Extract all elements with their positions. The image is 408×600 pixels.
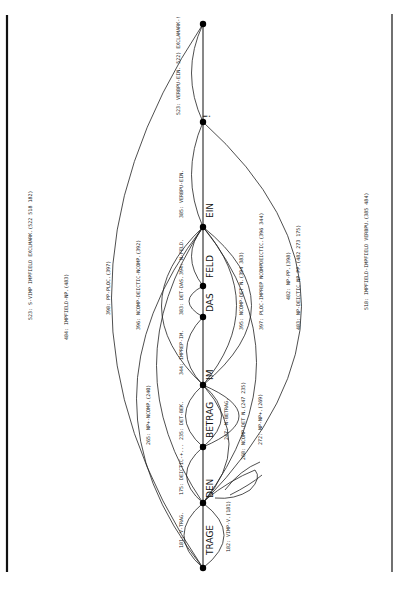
label-394: 394: N-FELD. — [178, 239, 184, 275]
word-feld: FELD — [205, 255, 215, 278]
word-den: DEN — [205, 479, 215, 498]
label-344: 344: IMPREP-IM. — [178, 330, 184, 375]
word-trage: TRAGE — [205, 525, 215, 556]
label-265: 265: NP+-NCOMP.(240) — [145, 385, 151, 445]
label-235: 235: DET-BEK. — [178, 401, 184, 440]
label-181: 181: V-TRAG. — [178, 512, 184, 548]
word-im: IM — [205, 370, 215, 380]
word-betrag: BETRAG — [205, 402, 215, 438]
label-175: 175: DEICTIC-+... — [178, 444, 184, 495]
label-182: 182: VIMP-V.(181) — [225, 501, 231, 552]
edge-181 — [184, 503, 203, 568]
label-483: 483: NP-DEICTIC NP PP.(482 273 175) — [295, 225, 301, 330]
edge-383 — [189, 286, 203, 317]
label-395: 395: NCOMP-DET N.(394 383) — [238, 252, 244, 330]
label-247: 247: N-BETRAG. — [223, 398, 229, 440]
edge-175 — [187, 447, 204, 503]
label-518: 518: IMPFIELD-IMPFIELD VERBPU.(385 484) — [363, 193, 369, 310]
label-272: 272: NP-NP+.(269) — [257, 394, 263, 445]
label-396: 396: NCOMP-DEICTIC-NCOMP.(392) — [135, 240, 141, 330]
edge-235 — [186, 385, 204, 447]
edge-344 — [187, 317, 204, 385]
label-482: 482: NP-PP.(398) — [285, 252, 291, 300]
label-484: 484: IMPFIELD-NP.(483) — [63, 274, 69, 340]
edge-518 — [203, 122, 302, 503]
word-exclamation: ! — [202, 114, 212, 118]
label-523: 523: VERBPU-EIN. 522) EXCLAMARK-! — [175, 16, 181, 115]
parse-chart-diagram: TRAGE DEN BETRAG IM DAS FELD EIN ! 181: … — [0, 0, 408, 600]
label-268: 268: NCOMP-DET N.(247 235) — [240, 382, 246, 460]
label-385: 385: VERBPU-EIN. — [178, 170, 184, 218]
label-383: 383: DET-DAS. — [178, 276, 184, 315]
label-398: 398: PP-PLOC.(397) — [105, 261, 111, 315]
label-522: 523: S-VIMP IMPFIELD EXCLMARK.(522 518 1… — [27, 191, 33, 320]
label-397: 397: PLOC-IMPREP NCOMPDEICTIC.(396 344) — [258, 213, 264, 330]
word-das: DAS — [205, 293, 215, 312]
word-ein: EIN — [205, 203, 215, 218]
edge-385 — [192, 122, 204, 227]
